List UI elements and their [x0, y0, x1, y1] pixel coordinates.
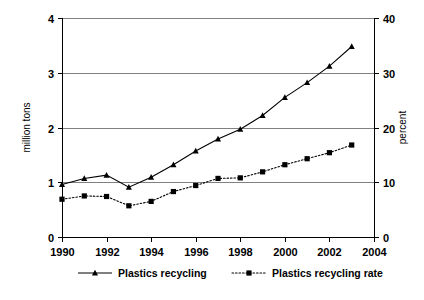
x-axis-tick-label-2002: 2002 [317, 246, 341, 258]
data-point-2-2003 [349, 142, 354, 147]
y-axis-left-tick-label-4: 4 [48, 13, 55, 25]
data-point-2-1999 [260, 169, 265, 174]
data-point-1-2003 [349, 43, 355, 49]
y-axis-left-tick-label-0: 0 [48, 232, 54, 244]
data-point-2-1992 [104, 194, 109, 199]
chart-figure: 0123401020304019901992199419961998200020… [0, 0, 424, 300]
data-point-2-1990 [59, 197, 64, 202]
x-axis-tick-label-1992: 1992 [95, 246, 119, 258]
data-point-2-1997 [215, 176, 220, 181]
y-axis-left-title: million tons [21, 102, 32, 152]
x-axis-tick-label-1996: 1996 [184, 246, 208, 258]
data-point-2-2000 [282, 162, 287, 167]
x-axis-tick-label-1990: 1990 [50, 246, 74, 258]
y-axis-right-tick-label-20: 20 [383, 123, 395, 135]
x-axis-tick-label-2000: 2000 [273, 246, 297, 258]
data-point-1-1995 [170, 162, 176, 168]
y-axis-right-tick-label-30: 30 [383, 68, 395, 80]
x-axis-tick-label-1994: 1994 [139, 246, 164, 258]
legend-label-2: Plastics recycling rate [272, 267, 383, 279]
legend-square-marker-2 [246, 270, 251, 275]
data-point-2-1994 [149, 199, 154, 204]
data-point-2-1991 [82, 193, 87, 198]
data-point-1-2001 [304, 79, 310, 85]
data-point-1-1996 [193, 148, 199, 154]
data-point-2-1996 [193, 183, 198, 188]
data-point-1-2000 [282, 94, 288, 100]
plastics-recycling-line-chart: 0123401020304019901992199419961998200020… [0, 0, 424, 300]
data-point-1-1992 [104, 172, 110, 178]
data-point-1-1994 [148, 174, 154, 180]
data-point-2-1993 [126, 203, 131, 208]
y-axis-right-tick-label-10: 10 [383, 177, 395, 189]
series-line-1 [62, 46, 352, 187]
data-point-2-1995 [171, 189, 176, 194]
legend-label-1: Plastics recycling [118, 267, 207, 279]
y-axis-right-tick-label-40: 40 [383, 13, 395, 25]
x-axis-tick-label-1998: 1998 [228, 246, 252, 258]
y-axis-right-tick-label-0: 0 [383, 232, 389, 244]
data-point-2-1998 [238, 175, 243, 180]
x-axis-tick-label-2004: 2004 [362, 246, 387, 258]
y-axis-left-tick-label-1: 1 [48, 177, 54, 189]
y-axis-left-tick-label-2: 2 [48, 123, 54, 135]
data-point-2-2001 [305, 156, 310, 161]
y-axis-right-title: percent [397, 111, 408, 145]
y-axis-left-tick-label-3: 3 [48, 68, 54, 80]
data-point-2-2002 [327, 150, 332, 155]
